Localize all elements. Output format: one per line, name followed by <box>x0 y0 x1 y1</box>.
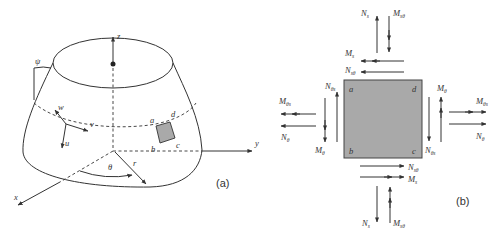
element-square <box>344 80 422 158</box>
right-mv-label: Mθ <box>436 83 447 94</box>
b-corner-b: b <box>349 146 353 156</box>
top-nh-label: Nsθ <box>344 65 356 76</box>
bottom-n-label: Ns <box>361 218 370 229</box>
w-vector <box>55 110 66 124</box>
v-vector <box>66 124 88 131</box>
w-label: w <box>58 102 64 112</box>
top-n-label: Ns <box>360 8 369 19</box>
caption-a: (a) <box>216 177 229 189</box>
psi-label: ψ <box>35 56 41 66</box>
bottom-mh-label: Ms <box>407 174 417 185</box>
left-mv-label: Mθ <box>314 145 325 156</box>
apex-point <box>111 62 116 67</box>
left-m-label: Mθs <box>278 96 291 107</box>
r-label: r <box>133 158 137 168</box>
u-label: u <box>65 138 69 148</box>
caption-b: (b) <box>456 195 469 207</box>
figure-b: a d b c Ns Msθ Ms Nsθ Mθs Nθ Nθs Mθ Mθ N… <box>278 8 488 229</box>
z-label: z <box>116 31 121 41</box>
theta-label: θ <box>108 162 112 172</box>
bottom-m-label: Msθ <box>392 218 405 229</box>
radius-arrow <box>115 152 146 184</box>
psi-arc <box>34 67 51 68</box>
x-axis-dashed <box>60 151 113 182</box>
corner-d: d <box>171 109 176 119</box>
b-corner-c: c <box>412 146 416 156</box>
shell-left-side <box>23 63 202 187</box>
top-m-label: Msθ <box>392 8 405 19</box>
shell-element <box>156 122 175 143</box>
b-corner-a: a <box>349 84 353 94</box>
figure-a: z y x r θ ψ w v u a d b c (a) <box>13 31 259 205</box>
y-label: y <box>254 138 259 148</box>
shell-diagram: z y x r θ ψ w v u a d b c (a) a <box>0 0 504 241</box>
right-nv-label: Nθs <box>424 145 436 156</box>
corner-a: a <box>150 115 154 125</box>
left-n-label: Nθ <box>280 132 290 143</box>
bottom-nh-label: Nsθ <box>407 162 419 173</box>
top-mh-label: Ms <box>344 48 354 59</box>
x-axis <box>18 182 60 205</box>
right-n-label: Nθ <box>475 131 485 142</box>
right-m-label: Mθs <box>475 96 488 107</box>
left-nv-label: Nθs <box>324 81 336 92</box>
corner-c: c <box>176 140 180 150</box>
shell-right-side <box>173 63 202 150</box>
theta-arc <box>80 171 132 177</box>
corner-b: b <box>151 144 155 154</box>
x-label: x <box>13 192 18 202</box>
v-label: v <box>90 119 94 129</box>
